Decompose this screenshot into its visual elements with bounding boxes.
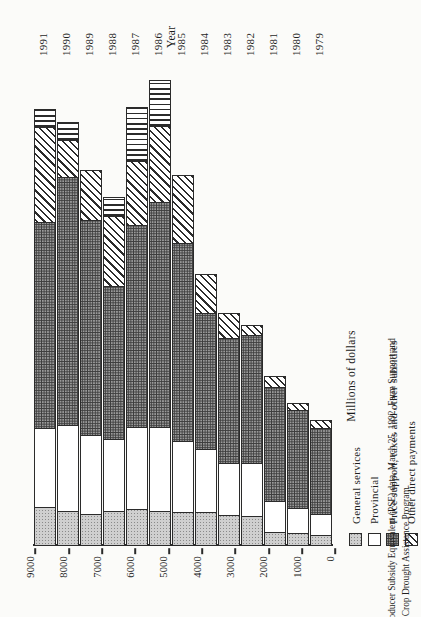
value-axis-tick [234, 548, 236, 554]
bar-segment [125, 224, 147, 427]
bar-segment [148, 125, 170, 202]
bar-segment [33, 108, 55, 127]
value-axis-tick [267, 548, 269, 554]
bar-segment [264, 375, 286, 387]
bar-segment [148, 202, 170, 428]
bar-segment [79, 169, 101, 220]
bar-segment [287, 532, 309, 545]
bar-segment [310, 428, 332, 514]
bar-segment [241, 515, 263, 545]
bar-segment [172, 511, 194, 545]
bar-segment [56, 176, 78, 426]
bar-segment [33, 507, 55, 546]
bar-segment [218, 462, 240, 515]
bar-segment [148, 510, 170, 545]
value-axis-tick-label: 7000 [91, 556, 102, 598]
bar-segment [56, 121, 78, 141]
value-axis-tick-label: 1000 [291, 556, 302, 598]
bar-segment [56, 510, 78, 545]
category-axis-label: 1984 [198, 32, 210, 55]
bar-segment [218, 515, 240, 546]
bar-stack [56, 121, 78, 545]
bar-segment [310, 420, 332, 429]
bar-stack [102, 197, 124, 546]
white-swatch [367, 533, 380, 546]
bar-segment [195, 313, 217, 450]
source-note-wrap: Source: Developed from OECD Producer Sub… [401, 309, 419, 609]
bar-stack [287, 402, 309, 545]
category-axis-label: 1980 [290, 32, 302, 55]
value-axis-tick [334, 548, 336, 554]
value-axis-tick-label: 9000 [25, 556, 36, 598]
value-axis-tick-label: 2000 [258, 556, 269, 598]
bar-stack [218, 312, 240, 545]
plot-area: 0100020003000400050006000700080009000 19… [33, 66, 333, 546]
bar-segment [218, 312, 240, 339]
source-line-1: Source: Developed from OECD Producer Sub… [386, 599, 400, 617]
value-axis-tick [301, 548, 303, 554]
category-axis-label: 1982 [244, 32, 256, 55]
bar-segment [33, 126, 55, 223]
legend-item: General services [349, 340, 362, 546]
value-axis-tick-label: 4000 [191, 556, 202, 598]
value-axis-tick [167, 548, 169, 554]
bar-segment [241, 463, 263, 516]
bar-stack [195, 273, 217, 545]
legend-item-label: General services [349, 447, 361, 524]
category-axis-label: 1987 [128, 32, 140, 55]
bar-stack [33, 108, 55, 545]
value-axis-tick-label: 3000 [225, 556, 236, 598]
source-line-2: Adjustment Measures II, Canadian Crop Dr… [399, 599, 413, 617]
bar-segment [148, 426, 170, 511]
bar-segment [195, 448, 217, 513]
value-axis-tick [134, 548, 136, 554]
legend-item-label: Provincial [368, 476, 380, 524]
bar-stack [264, 375, 286, 545]
category-axis-title: Year [165, 25, 177, 47]
category-axis-label: 1983 [221, 32, 233, 55]
bar-segment [56, 140, 78, 177]
chart-figure: 0100020003000400050006000700080009000 19… [0, 0, 421, 617]
bar-segment [125, 161, 147, 226]
source-note: Source: Developed from OECD Producer Sub… [386, 599, 413, 617]
bar-segment [56, 424, 78, 511]
legend-item: Provincial [367, 340, 380, 546]
value-axis-tick-label: 0 [325, 556, 336, 598]
bar-segment [172, 440, 194, 513]
value-axis-tick [34, 548, 36, 554]
value-axis-tick-label: 6000 [125, 556, 136, 598]
bar-segment [172, 243, 194, 441]
bar-segment [195, 512, 217, 546]
rotated-chart-canvas: 0100020003000400050006000700080009000 19… [15, 14, 407, 604]
bar-segment [287, 508, 309, 534]
category-axis-label: 1986 [151, 32, 163, 55]
bar-segment [241, 325, 263, 336]
bar-segment [310, 513, 332, 536]
value-axis-tick [101, 548, 103, 554]
bar-segment [172, 175, 194, 244]
bar-segment [125, 509, 147, 546]
bar-segment [102, 510, 124, 545]
category-axis-label: 1981 [267, 32, 279, 55]
bar-segment [79, 219, 101, 435]
bar-stack [125, 107, 147, 546]
bar-segment [310, 535, 332, 546]
category-axis-label: 1988 [105, 32, 117, 55]
value-axis-tick-label: 8000 [58, 556, 69, 598]
bar-segment [125, 107, 147, 162]
value-axis-tick-label: 5000 [158, 556, 169, 598]
value-axis-tick [201, 548, 203, 554]
bar-stack [310, 420, 332, 546]
bar-segment [264, 531, 286, 545]
bar-segment [218, 338, 240, 464]
bar-segment [241, 335, 263, 464]
bar-segment [195, 273, 217, 314]
bar-segment [102, 215, 124, 286]
bar-segment [287, 402, 309, 411]
bar-stack [148, 80, 170, 546]
bar-segment [148, 80, 170, 127]
bar-segment [102, 439, 124, 512]
bar-segment [33, 222, 55, 428]
bar-segment [102, 285, 124, 440]
bar-segment [125, 426, 147, 510]
